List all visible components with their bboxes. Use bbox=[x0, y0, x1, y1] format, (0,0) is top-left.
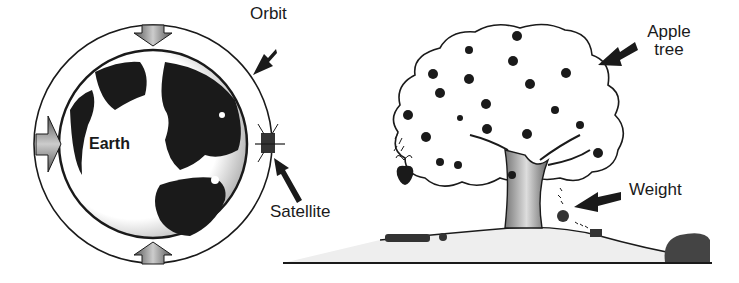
orbit-pointer-arrow bbox=[253, 49, 277, 75]
orbit-label: Orbit bbox=[250, 5, 287, 23]
ground bbox=[283, 227, 712, 263]
satellite-pointer-arrow bbox=[274, 158, 302, 203]
satellite-label: Satellite bbox=[270, 203, 330, 221]
earth-globe bbox=[59, 50, 247, 238]
earth-label: Earth bbox=[89, 136, 130, 153]
arrow-left-icon bbox=[36, 116, 61, 172]
apple-tree-pointer-arrow bbox=[598, 42, 638, 66]
arrow-bottom-icon bbox=[134, 242, 172, 264]
arrow-top-icon bbox=[134, 25, 172, 46]
apple-tree-label: Apple tree bbox=[641, 23, 697, 59]
weight-label: Weight bbox=[629, 181, 682, 199]
apple-tree-label-line2: tree bbox=[641, 41, 697, 59]
satellite-icon bbox=[255, 124, 285, 162]
apple-tree-label-line1: Apple bbox=[641, 23, 697, 41]
apple-tree bbox=[393, 24, 623, 228]
weight-pointer-arrow bbox=[574, 192, 621, 212]
